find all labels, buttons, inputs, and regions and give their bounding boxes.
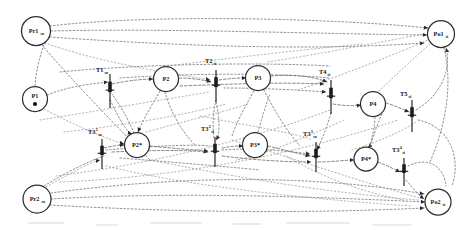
place-label: P1 bbox=[32, 92, 39, 99]
transition-t34[interactable] bbox=[400, 158, 408, 186]
place-subscript: so bbox=[40, 31, 44, 36]
transition-subscript: so bbox=[313, 134, 317, 139]
scan-artifacts bbox=[28, 222, 412, 226]
place-label: P4 bbox=[370, 100, 377, 107]
transition-label: T4 bbox=[319, 68, 327, 75]
place-pr2[interactable]: Pr2so bbox=[23, 185, 51, 213]
transition-t31[interactable] bbox=[98, 139, 106, 169]
transition-label: T3 bbox=[303, 130, 310, 137]
place-label: Pr2 bbox=[30, 195, 40, 202]
place-label: P3 bbox=[255, 74, 262, 81]
transition-subscript: so bbox=[98, 132, 102, 137]
petri-net-canvas: T1soT2siT4siT5siT31soT32siT33soT34si Pr1… bbox=[0, 0, 473, 230]
transition-label: T2 bbox=[205, 57, 212, 64]
transition-t5[interactable] bbox=[408, 100, 416, 132]
place-p3[interactable]: P3 bbox=[246, 66, 271, 91]
place-po2[interactable]: Po2si bbox=[425, 189, 451, 215]
transition-label: T3 bbox=[201, 125, 208, 132]
place-p3s[interactable]: P3* bbox=[243, 133, 268, 158]
place-pr1[interactable]: Pr1so bbox=[22, 17, 51, 46]
place-p4s[interactable]: P4* bbox=[354, 147, 378, 171]
transition-subscript: si bbox=[211, 129, 215, 134]
transition-subscript: si bbox=[408, 94, 412, 99]
place-label: Po2 bbox=[431, 198, 441, 205]
transition-t4[interactable] bbox=[327, 80, 335, 114]
place-label: P2 bbox=[163, 75, 170, 82]
transition-label: T1 bbox=[96, 66, 103, 73]
transition-subscript: si bbox=[402, 150, 406, 155]
transition-subscript: si bbox=[213, 61, 217, 66]
petri-net-svg: T1soT2siT4siT5siT31soT32siT33soT34si Pr1… bbox=[0, 0, 473, 230]
transition-t1[interactable] bbox=[106, 74, 114, 108]
transition-subscript: si bbox=[327, 72, 331, 77]
transition-label: T3 bbox=[88, 128, 95, 135]
place-label: P2* bbox=[132, 141, 142, 148]
place-p2s[interactable]: P2* bbox=[125, 133, 150, 158]
place-p2[interactable]: P2 bbox=[154, 67, 179, 92]
place-subscript: so bbox=[41, 199, 45, 204]
transition-t2[interactable] bbox=[212, 70, 220, 102]
transition-label: T3 bbox=[392, 146, 399, 153]
transition-label: T5 bbox=[400, 90, 407, 97]
transition-t32[interactable] bbox=[211, 137, 219, 167]
place-label: P3* bbox=[250, 141, 260, 148]
place-label: Po1 bbox=[434, 30, 444, 37]
place-po1[interactable]: Po1si bbox=[428, 21, 455, 48]
transition-subscript: so bbox=[104, 70, 108, 75]
place-label: P4* bbox=[361, 155, 371, 162]
place-p1[interactable]: P1 bbox=[23, 87, 48, 112]
place-label: Pr1 bbox=[29, 27, 39, 34]
arc-layer bbox=[35, 19, 455, 212]
place-p4[interactable]: P4 bbox=[361, 92, 386, 117]
